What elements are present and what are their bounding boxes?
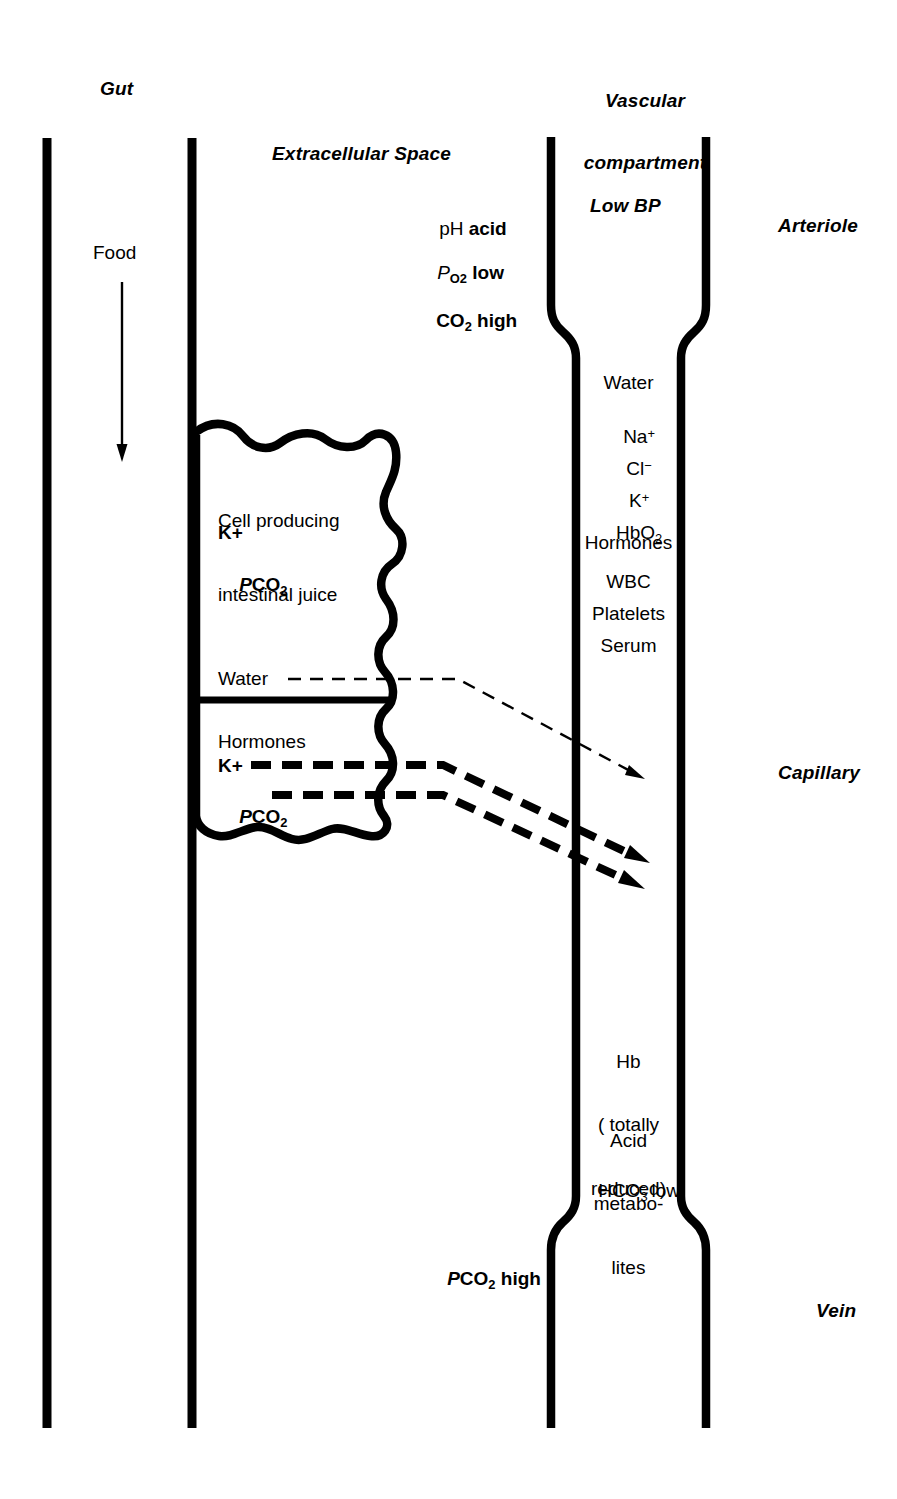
food-label: Food <box>93 242 136 264</box>
cell-secretion-water: Water <box>218 668 268 690</box>
extracellular-co2-condition: CO2 high <box>415 288 517 355</box>
diagram-canvas: Gut Vascular compartment Extracellular S… <box>0 0 897 1499</box>
cell-potassium: K+ <box>218 522 243 544</box>
arterial-content-serum: Serum <box>561 635 696 657</box>
vein-label: Vein <box>816 1300 856 1322</box>
vascular-compartment-heading-line2: compartment <box>530 153 760 174</box>
po2-value: low <box>472 262 504 283</box>
bicarbonate-charge: − <box>639 1180 647 1195</box>
ph-symbol: pH <box>439 218 463 239</box>
bicarbonate-main: HCO <box>598 1180 640 1201</box>
co2-value: high <box>477 310 517 331</box>
capillary-label: Capillary <box>778 762 860 784</box>
po2-subscript: O <box>450 271 460 286</box>
cell-secretion-pco2-p: P <box>239 806 252 827</box>
low-bp-label: Low BP <box>590 195 661 217</box>
venous-content-bicarbonate: HCO3− low <box>556 1158 701 1225</box>
potassium-transport-arrow <box>251 765 650 863</box>
extracellular-bottom-pco2: PCO2 high <box>426 1246 541 1313</box>
bottom-pco2-subnum: 2 <box>488 1277 495 1292</box>
vascular-compartment-heading-line1: Vascular <box>530 91 760 112</box>
venous-acid-line3: lites <box>558 1257 699 1278</box>
po2-subscript-number: 2 <box>460 271 467 286</box>
extracellular-space-heading: Extracellular Space <box>272 143 451 165</box>
cell-pco2: PCO2 <box>218 552 288 619</box>
ph-value: acid <box>469 218 507 239</box>
po2-p-symbol: P <box>437 262 450 283</box>
bottom-pco2-p: P <box>447 1268 460 1289</box>
arteriole-label: Arteriole <box>778 215 858 237</box>
co2-subscript: 2 <box>465 319 472 334</box>
cell-pco2-sub: CO <box>252 574 281 595</box>
cell-secretion-hormones: Hormones <box>218 731 306 753</box>
cell-secretion-pco2-subnum: 2 <box>280 815 287 830</box>
cell-pco2-p: P <box>239 574 252 595</box>
cell-secretion-pco2-sub: CO <box>252 806 281 827</box>
venous-hb-line1: Hb <box>558 1051 699 1072</box>
cell-secretion-potassium: K+ <box>218 755 243 777</box>
arterial-content-water: Water <box>561 372 696 394</box>
cell-secretion-pco2: PCO2 <box>218 784 288 851</box>
arterial-content-wbc: WBC <box>561 571 696 593</box>
co2-main: CO <box>436 310 465 331</box>
cell-pco2-subnum: 2 <box>280 583 287 598</box>
arterial-content-platelets: Platelets <box>558 603 699 625</box>
bottom-pco2-sub: CO <box>460 1268 489 1289</box>
bicarbonate-value: low <box>651 1180 680 1201</box>
vascular-compartment-heading: Vascular compartment <box>530 50 760 214</box>
arterial-content-hormones: Hormones <box>556 532 701 554</box>
gut-heading: Gut <box>100 78 133 100</box>
pco2-transport-arrow <box>272 795 645 889</box>
food-flow-arrow <box>117 282 128 462</box>
venous-acid-line1: Acid <box>558 1130 699 1151</box>
water-transport-arrow <box>288 679 645 779</box>
bottom-pco2-value: high <box>501 1268 541 1289</box>
